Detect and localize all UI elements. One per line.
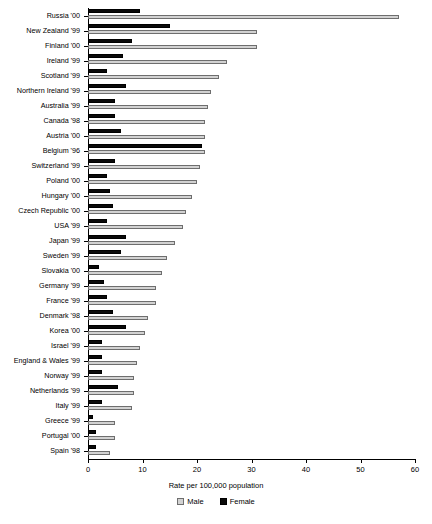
y-axis-tick — [84, 106, 88, 107]
category-label: Canada '98 — [43, 117, 80, 125]
bar-row — [88, 128, 415, 143]
chart-legend: Male Female — [0, 497, 432, 506]
x-axis-tick — [306, 459, 307, 463]
y-axis-tick — [84, 361, 88, 362]
category-axis-labels: Russia '00New Zealand '99Finland '00Irel… — [0, 8, 84, 459]
bar-row — [88, 113, 415, 128]
bar-row — [88, 53, 415, 68]
bar-female — [88, 310, 113, 314]
category-label: Poland '00 — [46, 177, 80, 185]
y-axis-tick — [84, 166, 88, 167]
legend-item-female: Female — [220, 497, 255, 506]
bar-female — [88, 445, 96, 449]
y-axis-tick — [84, 271, 88, 272]
bar-female — [88, 385, 118, 389]
bar-row — [88, 234, 415, 249]
bar-female — [88, 204, 113, 208]
bar-female — [88, 400, 102, 404]
y-axis-tick — [84, 226, 88, 227]
plot-area — [88, 8, 415, 459]
category-label: Austria '00 — [46, 132, 80, 140]
bar-male — [88, 451, 110, 455]
bar-row — [88, 309, 415, 324]
bar-male — [88, 60, 227, 64]
bar-female — [88, 250, 121, 254]
y-axis-tick — [84, 31, 88, 32]
category-label: Ireland '99 — [47, 57, 80, 65]
bar-male — [88, 225, 183, 229]
bar-male — [88, 195, 192, 199]
bar-female — [88, 219, 107, 223]
bar-male — [88, 346, 140, 350]
bar-male — [88, 165, 200, 169]
bar-row — [88, 354, 415, 369]
x-axis-tick — [361, 459, 362, 463]
bar-female — [88, 54, 123, 58]
category-label: Switzerland '99 — [31, 162, 80, 170]
category-label: Sweden '99 — [43, 252, 80, 260]
bar-male — [88, 406, 132, 410]
x-axis-tick — [252, 459, 253, 463]
y-axis-tick — [84, 61, 88, 62]
y-axis-tick — [84, 436, 88, 437]
category-label: New Zealand '99 — [26, 27, 80, 35]
bar-male — [88, 90, 211, 94]
bar-female — [88, 69, 107, 73]
bar-male — [88, 331, 145, 335]
bar-row — [88, 23, 415, 38]
bar-female — [88, 159, 115, 163]
y-axis-tick — [84, 406, 88, 407]
legend-label-male: Male — [187, 497, 203, 506]
bar-row — [88, 264, 415, 279]
bar-row — [88, 83, 415, 98]
category-label: France '99 — [46, 297, 80, 305]
category-label: Spain '98 — [50, 447, 80, 455]
y-axis-tick — [84, 16, 88, 17]
legend-item-male: Male — [177, 497, 203, 506]
bar-female — [88, 340, 102, 344]
bar-male — [88, 256, 167, 260]
bar-female — [88, 174, 107, 178]
category-label: Hungary '00 — [41, 192, 80, 200]
bar-female — [88, 355, 102, 359]
bar-male — [88, 421, 115, 425]
x-axis-tick — [197, 459, 198, 463]
bar-row — [88, 68, 415, 83]
bar-female — [88, 280, 104, 284]
x-axis-tick-label: 40 — [302, 465, 310, 474]
bar-row — [88, 218, 415, 233]
bar-row — [88, 143, 415, 158]
bar-male — [88, 180, 197, 184]
bar-female — [88, 265, 99, 269]
bar-female — [88, 415, 93, 419]
bar-male — [88, 15, 399, 19]
bar-female — [88, 144, 202, 148]
y-axis-tick — [84, 451, 88, 452]
category-label: Greece '99 — [45, 417, 80, 425]
category-label: USA '99 — [54, 222, 80, 230]
bar-female — [88, 114, 115, 118]
category-label: Australia '99 — [41, 102, 80, 110]
x-axis-tick-label: 60 — [411, 465, 419, 474]
bar-row — [88, 294, 415, 309]
bar-female — [88, 235, 126, 239]
y-axis-tick — [84, 136, 88, 137]
y-axis-tick — [84, 391, 88, 392]
y-axis-tick — [84, 76, 88, 77]
bar-row — [88, 98, 415, 113]
category-label: Japan '99 — [49, 237, 80, 245]
x-axis-tick — [143, 459, 144, 463]
y-axis-tick — [84, 346, 88, 347]
bar-female — [88, 9, 140, 13]
x-axis-tick-label: 50 — [356, 465, 364, 474]
bar-chart: Russia '00New Zealand '99Finland '00Irel… — [0, 0, 432, 524]
bar-female — [88, 84, 126, 88]
bar-row — [88, 369, 415, 384]
category-label: Slovakia '00 — [41, 267, 80, 275]
y-axis-tick — [84, 421, 88, 422]
bar-row — [88, 429, 415, 444]
bar-row — [88, 8, 415, 23]
bar-row — [88, 173, 415, 188]
category-label: Northern Ireland '99 — [17, 87, 80, 95]
bar-row — [88, 414, 415, 429]
